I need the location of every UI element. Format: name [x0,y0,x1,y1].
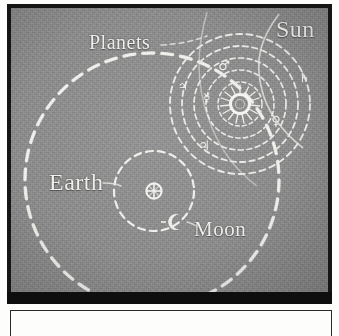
moon-symbol [161,214,179,230]
mars-icon: ♂ [218,58,230,73]
label-earth: Earth [49,169,103,196]
earth-symbol [146,183,161,198]
diagram-plate: ♂ ♃ ♄ ♀ ☿ ♃ [11,8,328,292]
earth-moon-group [114,151,194,231]
label-sun: Sun [276,16,315,43]
figure-page: ♂ ♃ ♄ ♀ ☿ ♃ [0,0,339,336]
saturn-icon: ♄ [298,70,310,85]
page-rule-left [10,310,11,336]
diagram-drawing: ♂ ♃ ♄ ♀ ☿ ♃ [11,8,328,292]
earth-leader-line [103,183,121,186]
page-rule-top [10,310,332,311]
page-rule-right [331,310,332,336]
label-planets: Planets [89,31,150,54]
jupiter-icon: ♃ [198,138,210,153]
orbit-venus [206,70,274,138]
orbit-saturn [170,34,310,174]
mercury-icon-2: ♃ [178,80,188,93]
plate-bottom-bar [7,292,332,304]
sun-symbol [221,85,260,123]
label-moon: Moon [194,217,246,242]
